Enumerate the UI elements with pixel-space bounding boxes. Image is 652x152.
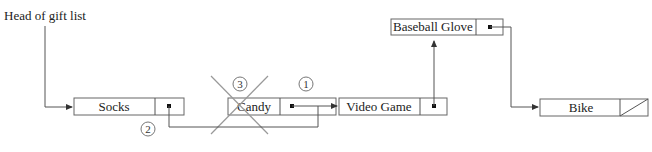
step-marker-2: 2 — [141, 122, 155, 136]
node-label: Video Game — [346, 99, 412, 114]
glove-to-bike-arrow — [490, 27, 538, 107]
node-label: Socks — [98, 99, 129, 114]
svg-text:2: 2 — [145, 123, 151, 135]
node-label: Candy — [237, 99, 271, 114]
svg-text:1: 1 — [303, 78, 309, 90]
node-video-game: Video Game — [339, 98, 447, 115]
head-label: Head of gift list — [4, 8, 86, 23]
node-baseball-glove: Baseball Glove — [391, 19, 503, 35]
linked-list-diagram: Head of gift list Socks Candy Video Game… — [0, 0, 652, 152]
step-marker-1: 1 — [299, 77, 313, 91]
node-candy: Candy — [211, 76, 336, 134]
node-bike: Bike — [540, 99, 648, 116]
node-label: Baseball Glove — [393, 19, 473, 34]
head-pointer-arrow — [45, 26, 72, 107]
svg-text:3: 3 — [237, 78, 243, 90]
node-socks: Socks — [74, 98, 184, 115]
node-label: Bike — [569, 100, 594, 115]
step-marker-3: 3 — [233, 77, 247, 91]
